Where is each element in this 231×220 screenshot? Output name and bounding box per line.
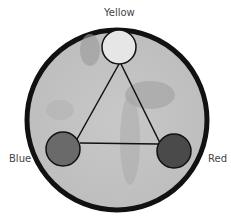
label-blue: Blue bbox=[9, 153, 31, 164]
label-yellow: Yellow bbox=[104, 7, 135, 18]
diagram-graphic bbox=[0, 0, 231, 220]
edge-blue-red bbox=[80, 143, 158, 144]
node-blue bbox=[46, 132, 80, 166]
node-red bbox=[157, 134, 191, 168]
color-triangle-diagram: Yellow Blue Red bbox=[0, 0, 231, 220]
node-yellow bbox=[102, 30, 136, 64]
label-red: Red bbox=[208, 153, 227, 164]
